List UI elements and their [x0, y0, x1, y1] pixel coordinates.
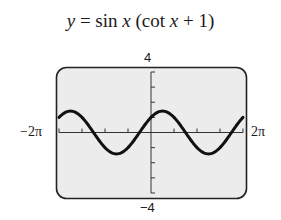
y-max-label: 4 [144, 50, 151, 65]
x-max-label: 2π [251, 124, 265, 140]
calculator-screen [0, 0, 281, 220]
y-min-label: −4 [140, 200, 155, 215]
x-min-label: −2π [20, 124, 42, 140]
